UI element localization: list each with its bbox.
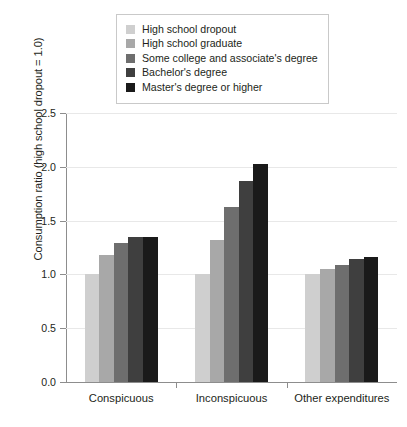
bar [128,237,143,382]
legend-label: Master's degree or higher [142,82,262,93]
legend-swatch-icon [126,54,135,63]
bar [253,164,268,382]
y-tick-label: 0.0 [22,376,56,388]
bar [349,259,364,382]
bar [143,237,158,382]
bar-group [66,113,176,382]
legend-swatch-icon [126,39,135,48]
bar-group [176,113,286,382]
y-tick-mark [60,382,66,383]
bar [114,243,129,382]
legend-item: Some college and associate's degree [126,51,319,66]
bar [320,269,335,382]
x-axis-label-0: Conspicuous [89,392,154,404]
y-tick-label: 0.5 [22,322,56,334]
legend-item: High school dropout [126,22,319,37]
legend-label: High school dropout [142,24,236,35]
bar [305,274,320,382]
bar [85,274,100,382]
bar-group [287,113,397,382]
legend-item: Bachelor's degree [126,66,319,81]
bar [335,265,350,382]
plot-area [66,113,397,382]
y-tick-label: 1.0 [22,268,56,280]
bar-chart: Consumption ratio (high school dropout =… [0,0,407,427]
bar [99,255,114,382]
legend-label: Bachelor's degree [142,67,227,78]
legend-swatch-icon [126,83,135,92]
legend-item: High school graduate [126,37,319,52]
y-tick-label: 1.5 [22,215,56,227]
legend-label: Some college and associate's degree [142,53,318,64]
x-axis-label-2: Other expenditures [294,392,389,404]
x-axis-label-1: Inconspicuous [196,392,268,404]
y-tick-label: 2.0 [22,161,56,173]
bar [224,207,239,382]
x-tick-mark [287,382,288,388]
x-tick-mark [176,382,177,388]
bar [364,257,379,382]
bar [210,240,225,382]
bar [195,274,210,382]
legend-swatch-icon [126,68,135,77]
legend-label: High school graduate [142,38,242,49]
bar [239,181,254,382]
legend-swatch-icon [126,25,135,34]
x-axis-line [66,382,397,383]
legend-item: Master's degree or higher [126,80,319,95]
y-axis-title: Consumption ratio (high school dropout =… [32,19,44,279]
y-tick-label: 2.5 [22,107,56,119]
legend: High school dropoutHigh school graduateS… [116,14,329,104]
